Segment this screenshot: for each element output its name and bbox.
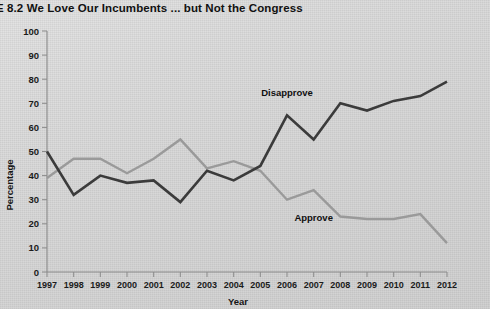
x-tick-label-1998: 1998 bbox=[64, 280, 84, 290]
x-tick-label-2008: 2008 bbox=[330, 280, 350, 290]
y-tick-label-100: 100 bbox=[23, 26, 39, 37]
y-tick-label-40: 40 bbox=[28, 170, 39, 181]
x-tick-label-2012: 2012 bbox=[437, 280, 457, 290]
y-axis: 100 90 80 70 60 50 40 30 20 10 0 bbox=[23, 26, 47, 278]
x-tick-label-2004: 2004 bbox=[224, 280, 244, 290]
x-tick-label-2010: 2010 bbox=[384, 280, 404, 290]
series-line-disapprove bbox=[47, 82, 447, 203]
y-tick-label-0: 0 bbox=[34, 267, 39, 278]
series-line-approve bbox=[47, 139, 447, 243]
y-tick-label-10: 10 bbox=[28, 242, 39, 253]
series-annotation-approve: Approve bbox=[294, 212, 333, 223]
x-tick-label-2007: 2007 bbox=[304, 280, 324, 290]
x-axis: 1997 1998 1999 2000 2001 2002 2003 2004 … bbox=[37, 272, 457, 290]
x-tick-label-2000: 2000 bbox=[117, 280, 137, 290]
y-tick-label-20: 20 bbox=[28, 218, 39, 229]
y-axis-title: Percentage bbox=[4, 159, 15, 210]
y-tick-label-50: 50 bbox=[28, 146, 39, 157]
figure-container: E 8.2 We Love Our Incumbents ... but Not… bbox=[0, 0, 490, 309]
x-axis-title: Year bbox=[228, 296, 248, 307]
x-tick-marks bbox=[47, 272, 447, 277]
series-annotation-disapprove: Disapprove bbox=[261, 87, 313, 98]
x-tick-label-2003: 2003 bbox=[197, 280, 217, 290]
y-tick-label-90: 90 bbox=[28, 50, 39, 61]
line-chart: 100 90 80 70 60 50 40 30 20 10 0 bbox=[0, 0, 490, 309]
x-tick-label-2011: 2011 bbox=[411, 280, 431, 290]
y-tick-marks bbox=[42, 31, 47, 272]
x-tick-label-1999: 1999 bbox=[90, 280, 110, 290]
y-tick-label-70: 70 bbox=[28, 98, 39, 109]
y-tick-label-80: 80 bbox=[28, 74, 39, 85]
y-tick-label-60: 60 bbox=[28, 122, 39, 133]
y-tick-label-30: 30 bbox=[28, 194, 39, 205]
x-tick-label-2006: 2006 bbox=[277, 280, 297, 290]
x-tick-label-1997: 1997 bbox=[37, 280, 57, 290]
x-tick-label-2002: 2002 bbox=[170, 280, 190, 290]
x-tick-label-2001: 2001 bbox=[144, 280, 164, 290]
x-tick-label-2005: 2005 bbox=[250, 280, 270, 290]
x-tick-label-2009: 2009 bbox=[357, 280, 377, 290]
